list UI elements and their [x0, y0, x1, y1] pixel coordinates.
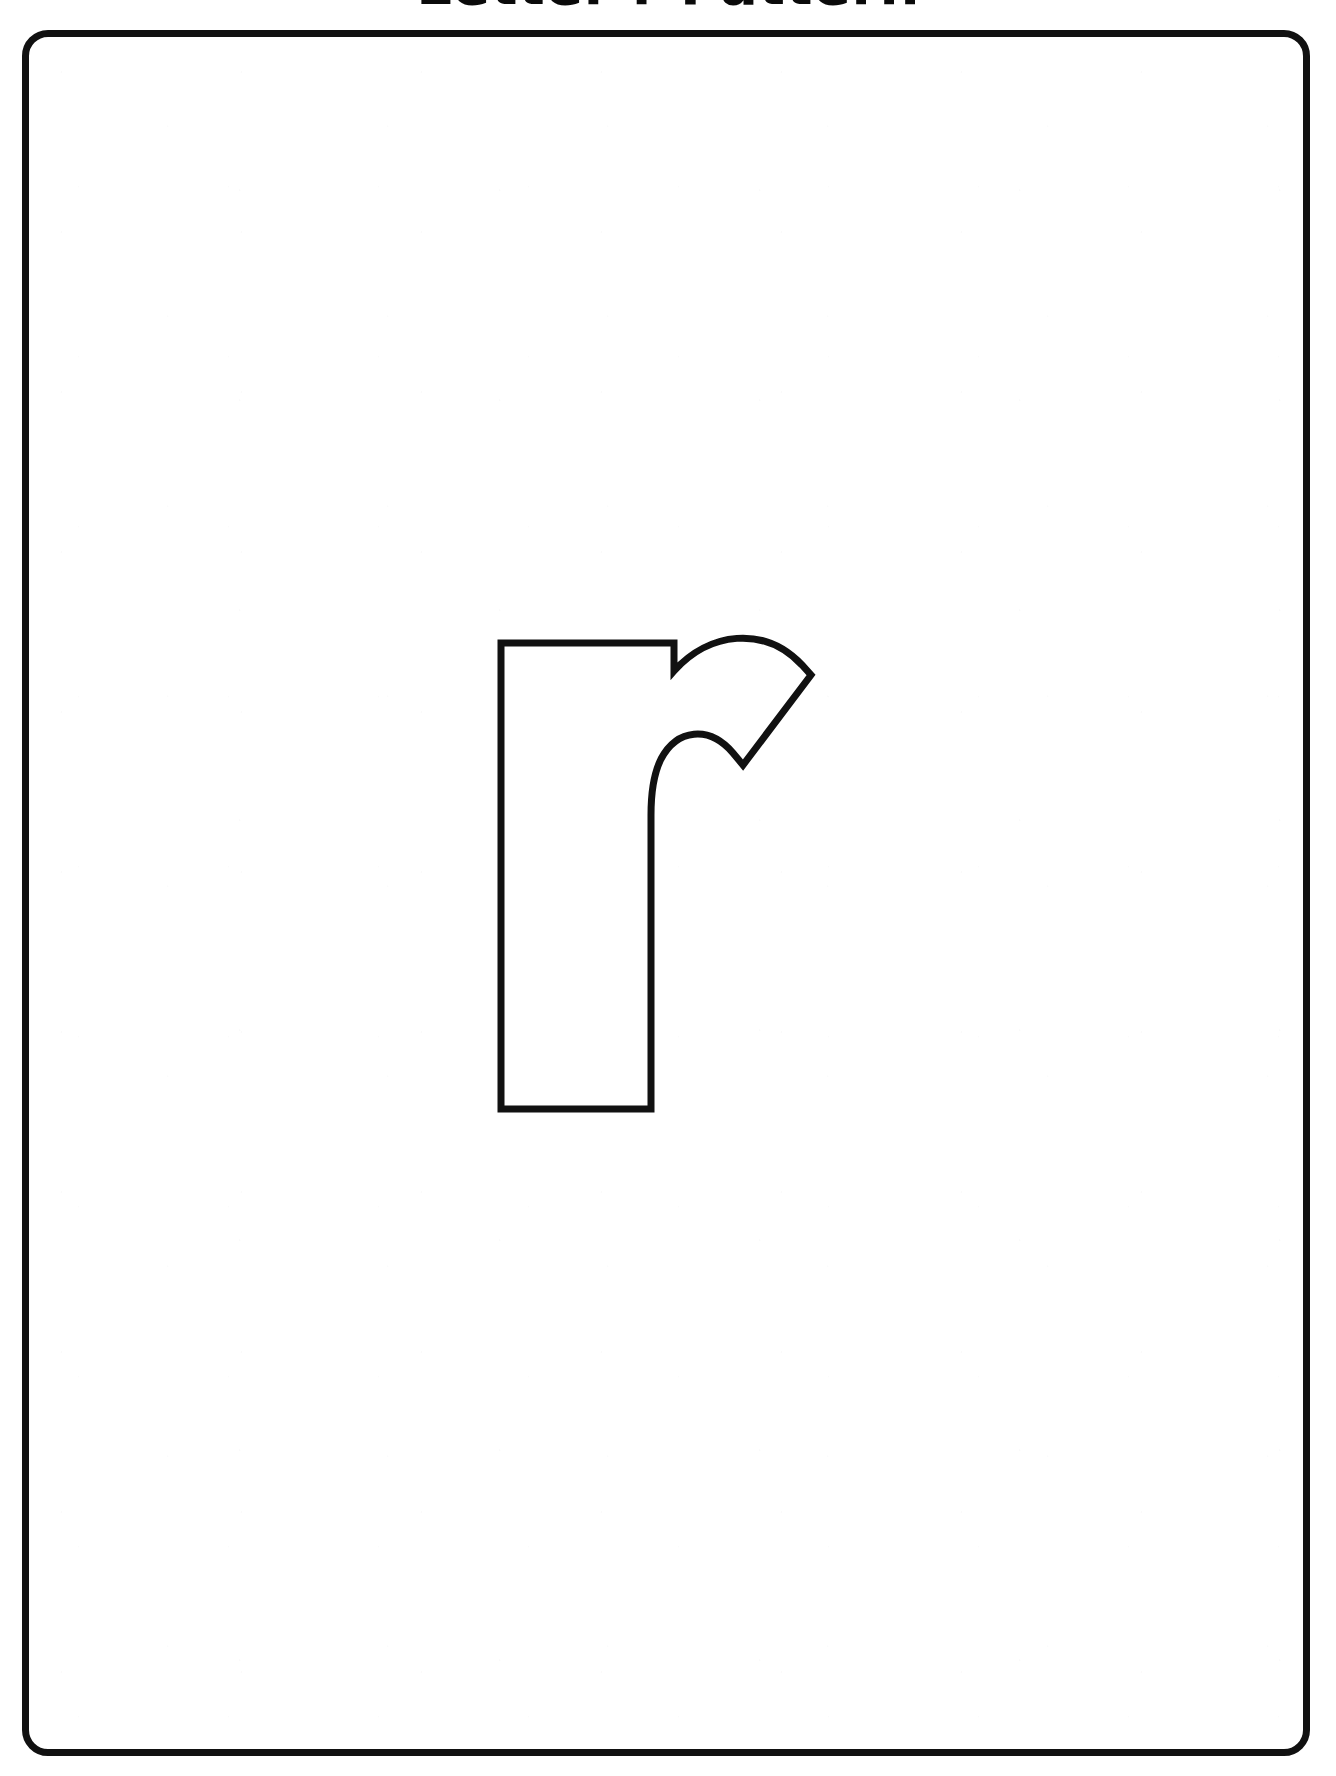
title-area: Letter r Pattern	[0, 0, 1336, 26]
letter-r-path	[501, 638, 811, 1109]
sheet-border-frame	[22, 30, 1310, 1756]
letter-r-outline	[409, 537, 849, 1137]
worksheet-page: Letter r Pattern	[0, 0, 1336, 1776]
letter-r-svg	[409, 537, 849, 1137]
page-title: Letter r Pattern	[0, 0, 1336, 16]
